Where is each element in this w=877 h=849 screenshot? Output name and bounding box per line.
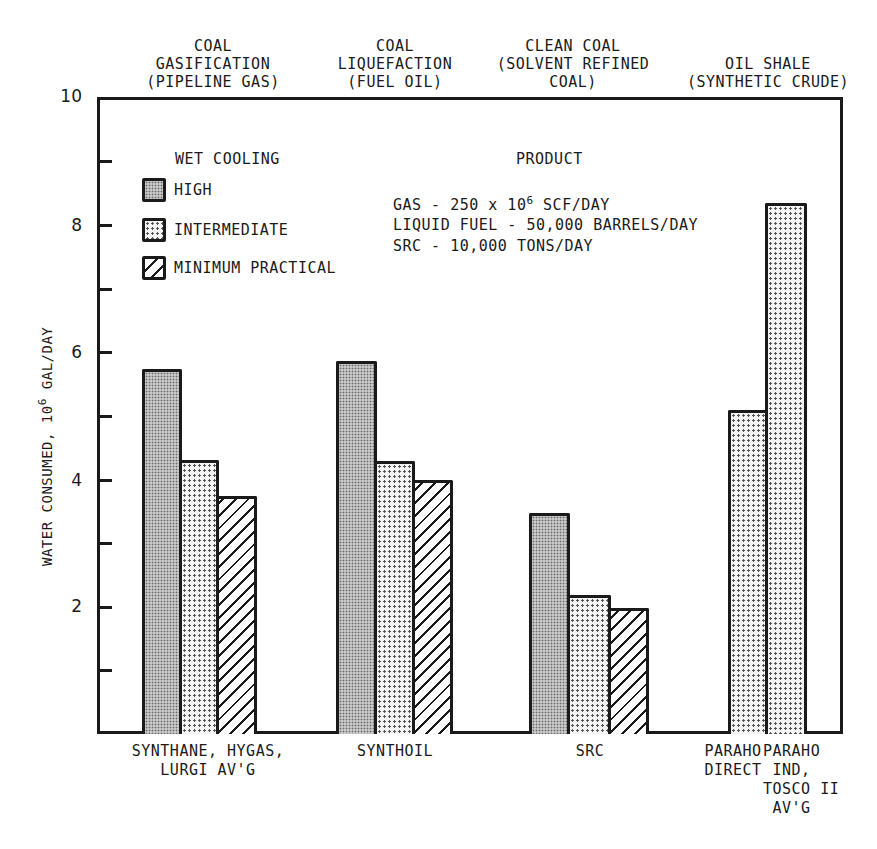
x-label-src: SRC [560, 742, 620, 761]
y-tick-minor-5 [100, 415, 112, 418]
y-tick-label-6: 6 [52, 342, 82, 362]
product-liquid-fuel: LIQUID FUEL - 50,000 BARRELS/DAY [393, 216, 698, 234]
group-header-coal-liquefaction: COAL LIQUEFACTION (FUEL OIL) [310, 37, 480, 91]
legend-swatch-minimum [142, 256, 166, 280]
group-header-oil-shale: OIL SHALE (SYNTHETIC CRUDE) [668, 55, 868, 91]
product-title: PRODUCT [516, 150, 583, 168]
legend-label-high: HIGH [174, 181, 212, 199]
product-src: SRC - 10,000 TONS/DAY [393, 237, 593, 255]
y-tick-major-6 [100, 351, 112, 354]
y-tick-minor-9 [100, 160, 112, 163]
bar-paraho-direct-intermediate [728, 410, 768, 734]
bar-synthane-high [142, 369, 182, 734]
x-label-synthoil: SYNTHOIL [340, 742, 450, 761]
bar-src-intermediate [567, 595, 611, 734]
group-header-clean-coal: CLEAN COAL (SOLVENT REFINED COAL) [483, 37, 663, 91]
y-tick-minor-3 [100, 542, 112, 545]
y-tick-minor-7 [100, 288, 112, 291]
legend-swatch-intermediate [142, 218, 166, 242]
bar-synthane-intermediate [179, 460, 219, 734]
y-tick-major-2 [100, 606, 112, 609]
bar-src-high [529, 513, 570, 734]
bar-src-minimum [608, 608, 649, 734]
product-gas: GAS - 250 x 106 SCF/DAY [393, 194, 610, 214]
bar-synthane-minimum [216, 496, 257, 734]
x-label-paraho-direct: PARAHO DIRECT [697, 742, 769, 780]
y-tick-label-10: 10 [52, 86, 82, 106]
y-tick-minor-1 [100, 669, 112, 672]
legend-swatch-high [142, 178, 166, 202]
legend-title: WET COOLING [175, 150, 280, 168]
bar-synthoil-high [336, 361, 377, 734]
x-label-synthane: SYNTHANE, HYGAS, LURGI AV'G [118, 742, 298, 780]
x-label-paraho-ind-tosco: PARAHO IND, TOSCO II AV'G [763, 742, 853, 818]
y-tick-label-2: 2 [52, 596, 82, 616]
y-axis-label: WATER CONSUMED, 106 GAL/DAY [36, 327, 55, 566]
y-tick-major-4 [100, 479, 112, 482]
y-tick-label-8: 8 [52, 215, 82, 235]
bar-synthoil-intermediate [374, 461, 415, 734]
legend-label-minimum: MINIMUM PRACTICAL [174, 259, 336, 277]
group-header-coal-gasification: COAL GASIFICATION (PIPELINE GAS) [118, 37, 308, 91]
bar-paraho-ind-tosco-intermediate [765, 203, 807, 734]
y-tick-major-8 [100, 224, 112, 227]
legend-label-intermediate: INTERMEDIATE [174, 221, 288, 239]
y-tick-label-4: 4 [52, 470, 82, 490]
bar-synthoil-minimum [412, 480, 453, 734]
